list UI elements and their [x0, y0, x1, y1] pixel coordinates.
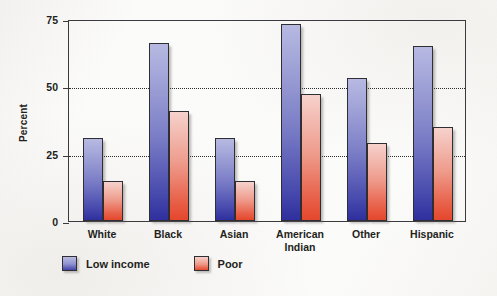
x-tick-label-hispanic-line1: Hispanic [387, 228, 477, 241]
legend-label-poor: Poor [218, 258, 243, 270]
legend-label-low-income: Low income [86, 258, 150, 270]
bar-asian-poor [235, 181, 255, 221]
gridline-50 [69, 88, 465, 89]
bar-hispanic-poor [433, 127, 453, 221]
plot-inner [69, 21, 465, 221]
y-tick-label-50: 50 [12, 81, 58, 93]
bar-chart-figure: Percent 75 50 25 0 [0, 0, 497, 296]
bar-other-low-income [347, 78, 367, 221]
bar-american-indian-low-income [281, 24, 301, 221]
y-tick-mark-0 [63, 223, 69, 224]
y-axis-label: Percent [18, 88, 29, 158]
legend-entry-low-income: Low income [62, 256, 150, 271]
bar-black-low-income [149, 43, 169, 221]
y-tick-label-25: 25 [12, 149, 58, 161]
y-tick-mark-75 [63, 21, 69, 22]
bar-other-poor [367, 143, 387, 221]
bar-black-poor [169, 111, 189, 221]
x-tick-label-american-indian-line2: Indian [255, 241, 345, 254]
legend-entry-poor: Poor [194, 256, 243, 271]
x-tick-label-hispanic: Hispanic [387, 228, 477, 241]
chart-legend: Low income Poor [62, 256, 287, 271]
bar-american-indian-poor [301, 94, 321, 221]
bar-white-poor [103, 181, 123, 221]
blue-swatch-icon [62, 256, 77, 271]
bar-asian-low-income [215, 138, 235, 221]
plot-area [68, 20, 466, 222]
y-tick-label-0: 0 [12, 216, 58, 228]
bar-hispanic-low-income [413, 46, 433, 221]
gridline-25 [69, 156, 465, 157]
y-tick-label-75: 75 [12, 14, 58, 26]
bar-white-low-income [83, 138, 103, 221]
red-swatch-icon [194, 256, 209, 271]
